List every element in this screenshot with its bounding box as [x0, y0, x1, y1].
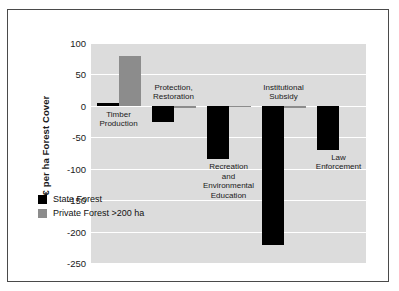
category-label: Recreation and Environmental Education — [201, 162, 256, 200]
legend-label: Private Forest >200 ha — [53, 208, 144, 218]
gridline — [91, 43, 366, 44]
y-tick-label: -250 — [48, 258, 86, 269]
bar — [262, 106, 284, 245]
y-tick-label: -50 — [48, 132, 86, 143]
category-label: Institutional Subsidy — [256, 83, 311, 102]
y-tick-label: 0 — [48, 100, 86, 111]
y-tick-label: -200 — [48, 226, 86, 237]
bar — [317, 106, 339, 150]
y-axis-tick-labels: 100500-50-100-150-200-250 — [48, 43, 86, 263]
plot-area: Timber ProductionProtection, Restoration… — [91, 43, 366, 263]
chart-figure: € per ha Forest Cover 100500-50-100-150-… — [0, 0, 399, 291]
y-tick-label: 50 — [48, 69, 86, 80]
chart-legend: State ForestPrivate Forest >200 ha — [38, 193, 144, 221]
y-tick-label: -100 — [48, 163, 86, 174]
legend-label: State Forest — [53, 194, 102, 204]
bar — [119, 56, 141, 106]
legend-item: Private Forest >200 ha — [38, 207, 144, 219]
bar — [97, 103, 119, 106]
category-label: Law Enforcement — [311, 153, 366, 172]
gridline — [91, 232, 366, 233]
legend-item: State Forest — [38, 193, 144, 205]
y-tick-label: 100 — [48, 38, 86, 49]
bar — [229, 106, 251, 107]
bar — [174, 106, 196, 108]
legend-swatch-icon — [38, 209, 47, 218]
legend-swatch-icon — [38, 195, 47, 204]
category-label: Timber Production — [91, 110, 146, 129]
bar — [284, 106, 306, 108]
bar — [152, 106, 174, 122]
category-label: Protection, Restoration — [146, 83, 201, 102]
bar — [207, 106, 229, 159]
figure-frame: € per ha Forest Cover 100500-50-100-150-… — [7, 9, 389, 282]
